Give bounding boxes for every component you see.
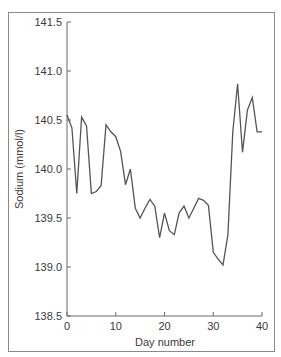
y-axis-ticks: 138.5139.0139.5140.0140.5141.0141.5 (34, 16, 71, 322)
sodium-series-line (67, 84, 262, 265)
y-tick-label: 140.0 (34, 163, 62, 175)
y-tick-label: 138.5 (34, 310, 62, 322)
x-axis-ticks: 010203040 (64, 312, 268, 332)
y-tick-label: 139.0 (34, 261, 62, 273)
x-tick-label: 10 (110, 320, 122, 332)
y-axis-title: Sodium (mmol/l) (13, 129, 25, 209)
y-tick-label: 139.5 (34, 212, 62, 224)
y-tick-label: 140.5 (34, 114, 62, 126)
axes (67, 22, 262, 316)
x-tick-label: 40 (256, 320, 268, 332)
y-tick-label: 141.5 (34, 16, 62, 28)
x-tick-label: 20 (158, 320, 170, 332)
x-axis-title: Day number (135, 336, 195, 348)
x-tick-label: 0 (64, 320, 70, 332)
x-tick-label: 30 (207, 320, 219, 332)
y-tick-label: 141.0 (34, 65, 62, 77)
sodium-line-chart: 138.5139.0139.5140.0140.5141.0141.5 0102… (0, 0, 281, 357)
